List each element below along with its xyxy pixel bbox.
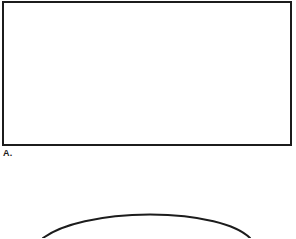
- figure-sheet: A.: [0, 0, 296, 238]
- arc-stroke: [43, 215, 250, 239]
- panel-b-arc: [0, 190, 296, 238]
- panel-a-label: A.: [3, 148, 12, 159]
- panel-a-rectangle: [2, 1, 292, 146]
- panel-b-arc-path: [0, 190, 296, 238]
